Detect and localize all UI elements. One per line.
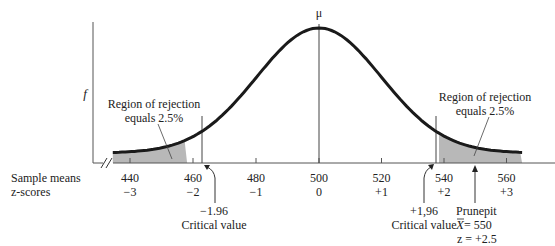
z-score-tick-label: −2 [187,185,200,199]
sample-means-row-label: Sample means [11,171,81,185]
arrow-head-icon [428,164,434,170]
sample-mean-tick-label: 540 [435,171,453,185]
sample-mean-tick-label: 500 [310,171,328,185]
z-score-tick-label: 0 [316,185,322,199]
z-score-tick-label: −3 [124,185,137,199]
mean-label: μ [316,6,322,20]
left-critical-arrow [207,167,215,203]
sample-mean-tick-label: 520 [373,171,391,185]
sample-z: z = +2.5 [457,232,497,246]
sample-mean-tick-label: 460 [184,171,202,185]
z-score-tick-label: +2 [438,185,451,199]
left-region-label-line1: Region of rejection [108,97,201,111]
sample-mean-tick-label: 480 [247,171,265,185]
right-critical-arrow [424,167,431,203]
z-score-tick-label: +1 [375,185,388,199]
sample-name: Prunepit [456,204,497,218]
left-region-label-line2: equals 2.5% [125,111,184,125]
z-score-tick-label: +3 [500,185,513,199]
right-region-label-line1: Region of rejection [439,90,532,104]
left-critical-label: Critical value [182,218,247,232]
normal-distribution-diagram: μ f Region of rejection equals 2.5% Regi… [0,0,555,246]
right-region-label-line2: equals 2.5% [456,104,515,118]
y-axis-label: f [83,86,89,101]
xbar-value: = 550 [464,218,492,232]
arrow-head-icon [472,165,478,172]
left-critical-value: −1.96 [200,204,228,218]
right-critical-value: +1,96 [410,204,438,218]
sample-mean-tick-label: 440 [121,171,139,185]
arrow-head-icon [204,165,210,170]
sample-mean-tick-label: 560 [498,171,516,185]
tick-labels: 440−3460−2480−15000520+1540+2560+3 [121,171,516,199]
right-critical-label: Critical value [392,218,457,232]
z-scores-row-label: z-scores [11,185,51,199]
z-score-tick-label: −1 [250,185,263,199]
